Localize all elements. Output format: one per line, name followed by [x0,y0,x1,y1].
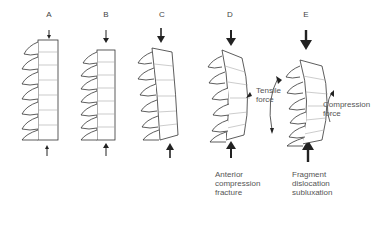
arrow-d-bottom [226,141,236,158]
arrow-b-top [103,30,109,43]
caption-d: Anterior compression fracture [215,170,260,197]
arrow-e-top [300,30,312,50]
arrow-a-bottom [45,145,49,156]
spine-d [208,50,252,142]
spine-b [81,50,115,140]
compression-force-label: Compression force [323,100,370,118]
spine-a [22,40,58,140]
spine-c [138,48,178,140]
arrow-a-top [47,30,51,39]
arrow-c-bottom [166,143,174,158]
arrow-d-top [226,30,236,46]
tensile-force-label: Tensile force [256,86,281,104]
arrow-b-bottom [103,143,109,156]
arrow-c-top [157,28,165,43]
tensile-arrow-down-icon [270,128,274,134]
caption-e: Fragment dislocation subluxation [292,170,332,197]
